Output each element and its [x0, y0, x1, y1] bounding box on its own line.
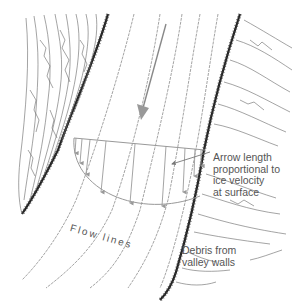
arrow-label-line-4: at surface — [213, 187, 280, 199]
label-pointer — [172, 152, 210, 164]
main-flow-arrow — [137, 24, 166, 120]
glacier-diagram: Arrow length proportional to ice velocit… — [0, 0, 296, 304]
debris-label: Debris from valley walls — [182, 245, 236, 268]
debris-label-line-1: Debris from — [182, 245, 236, 257]
arrow-length-label: Arrow length proportional to ice velocit… — [213, 152, 280, 198]
arrow-label-line-1: Arrow length — [213, 152, 280, 164]
debris-label-line-2: valley walls — [182, 257, 236, 269]
arrow-label-line-3: ice velocity — [213, 175, 280, 187]
